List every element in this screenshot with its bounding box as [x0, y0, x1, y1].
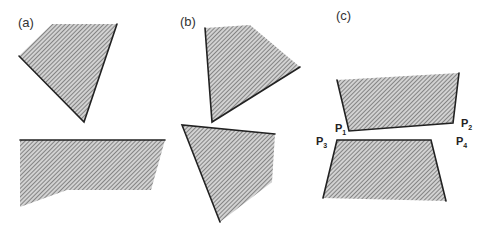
point-label-p1: P1 — [335, 122, 346, 136]
panel-a-label: (a) — [18, 15, 34, 30]
point-label-p4: P4 — [456, 135, 467, 149]
panel-c-top-polygon — [337, 73, 459, 131]
panel-b-top-polygon — [205, 25, 300, 122]
panel-c-label: (c) — [336, 8, 351, 23]
panel-b-bottom-polygon — [182, 125, 275, 222]
panel-b: (b) — [180, 14, 300, 222]
panel-c-bottom-polygon — [323, 140, 446, 201]
panel-a-bottom-polygon — [20, 140, 165, 207]
point-label-p3: P3 — [316, 135, 327, 149]
panel-a: (a) — [18, 15, 165, 207]
panel-c: (c) P1 P2 P3 P4 — [316, 8, 472, 201]
figure-canvas: (a) (b) (c) P1 P2 P3 P4 — [0, 0, 489, 232]
panel-b-label: (b) — [180, 14, 196, 29]
panel-a-top-polygon — [19, 24, 117, 122]
point-label-p2: P2 — [461, 117, 472, 131]
